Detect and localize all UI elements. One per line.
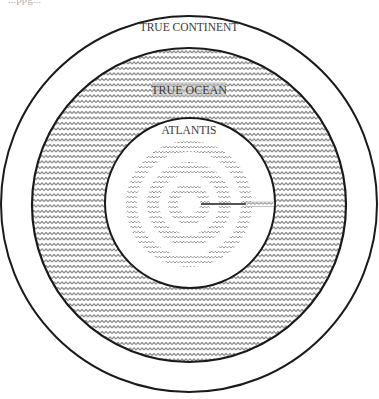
label-atlantis: ATLANTIS xyxy=(162,124,217,136)
atlantis-concentric-diagram: TRUE CONTINENT TRUE OCEAN ATLANTIS xyxy=(0,0,379,399)
label-true-continent: TRUE CONTINENT xyxy=(140,21,239,33)
central-island xyxy=(178,193,200,215)
label-true-ocean: TRUE OCEAN xyxy=(151,83,227,97)
